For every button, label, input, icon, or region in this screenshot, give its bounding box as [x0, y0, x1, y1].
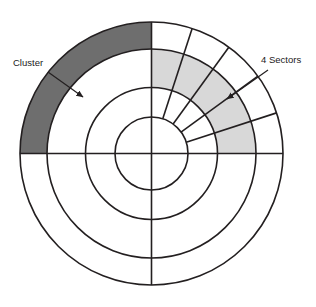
radial-diagram-svg: Cluster 4 Sectors: [0, 0, 316, 307]
radial-diagram-figure: Cluster 4 Sectors: [0, 0, 316, 307]
sectors-label: 4 Sectors: [261, 54, 301, 65]
cluster-label: Cluster: [13, 57, 43, 68]
